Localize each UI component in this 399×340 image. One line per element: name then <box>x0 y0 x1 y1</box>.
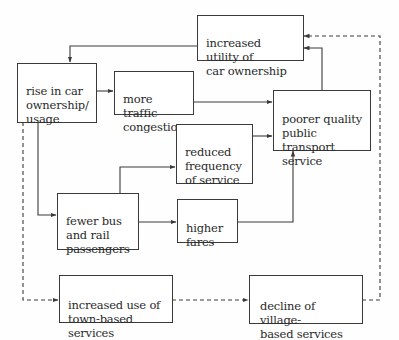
node-label: poorer quality public transport service <box>282 112 364 168</box>
node-label: increased utility of car ownership <box>206 36 297 78</box>
node-more-traffic-congestion: more traffic congestion <box>114 71 194 115</box>
node-decline-village-services: decline of village- based services <box>249 275 363 324</box>
node-label: decline of village- based services <box>260 299 356 340</box>
node-label: higher fares <box>186 221 231 249</box>
node-label: reduced frequency of service <box>185 145 246 187</box>
edge-utility-to-rise <box>70 46 197 62</box>
node-poorer-quality-public-transport: poorer quality public transport service <box>273 90 371 151</box>
node-higher-fares: higher fares <box>177 199 238 243</box>
node-rise-in-car-ownership: rise in car ownership/ usage <box>17 63 97 123</box>
edge-poorer-to-utility <box>304 48 322 90</box>
node-increased-utility: increased utility of car ownership <box>197 15 304 61</box>
node-reduced-frequency: reduced frequency of service <box>176 124 253 184</box>
edge-rise-to-town <box>23 122 58 300</box>
node-fewer-bus-rail-passengers: fewer bus and rail passengers <box>57 193 139 250</box>
node-increased-use-town-services: increased use of town-based services <box>59 275 173 323</box>
node-label: increased use of town-based services <box>68 298 166 340</box>
node-label: fewer bus and rail passengers <box>66 214 132 256</box>
edge-fewer-to-reduced <box>120 167 175 193</box>
node-label: rise in car ownership/ usage <box>26 84 90 126</box>
diagram-canvas: increased utility of car ownership rise … <box>0 0 399 340</box>
